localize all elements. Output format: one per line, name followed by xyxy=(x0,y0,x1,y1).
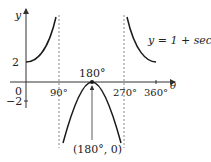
x-axis-label: θ xyxy=(170,80,176,91)
point-annotation: (180°, 0) xyxy=(73,143,122,156)
x-tick-270: 270° xyxy=(113,87,137,98)
curve-left-branch xyxy=(26,17,56,62)
equation-label: y = 1 + sec θ xyxy=(147,34,211,47)
y-tick-2: 2 xyxy=(12,56,19,69)
y-tick-minus2: −2 xyxy=(6,95,22,108)
y-axis-label: y xyxy=(14,9,22,22)
x-tick-360: 360° xyxy=(144,87,168,98)
x-tick-90: 90° xyxy=(50,87,68,98)
sec-graph: y θ 0 2 −2 90° 180° 270° 360° y = 1 + se… xyxy=(0,0,211,162)
maximum-point xyxy=(90,80,94,84)
peak-label: 180° xyxy=(79,67,106,80)
